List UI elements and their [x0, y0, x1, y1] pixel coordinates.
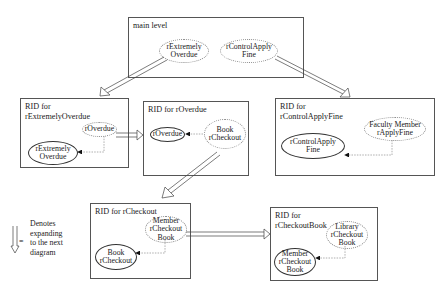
- node-rcontrolapply-fine[interactable]: rControlApply Fine: [220, 39, 278, 63]
- box-title: RID for rOverdue: [148, 105, 207, 115]
- box-title: RID for rCheckout: [95, 207, 157, 217]
- rid-rcontrolapplyfine-box: RID for rControlApplyFine Faculty Member…: [275, 98, 435, 176]
- node-library-rcheckout-book[interactable]: Library rCheckout Book: [326, 221, 368, 249]
- node-rcontrolapply-fine[interactable]: rControlApply Fine: [281, 133, 345, 159]
- node-roverdue[interactable]: rOverdue: [82, 122, 117, 137]
- node-faculty-member-rapplyfine[interactable]: Faculty Member rApplyFine: [364, 117, 426, 141]
- legend-text: Denotes expanding to the next diagram: [30, 219, 63, 257]
- box-title: RID for rCheckoutBook: [275, 211, 327, 230]
- node-book-rcheckout[interactable]: Book rCheckout: [204, 119, 246, 149]
- box-title: main level: [133, 21, 167, 31]
- rid-rcheckoutbook-box: RID for rCheckoutBook Library rCheckout …: [270, 207, 378, 281]
- node-rextremely-overdue[interactable]: rExtremely Overdue: [159, 39, 209, 63]
- main-level-box: main level rExtremely Overdue rControlAp…: [128, 17, 304, 78]
- node-book-rcheckout[interactable]: Book rCheckout: [95, 244, 137, 270]
- legend-equals: =: [19, 237, 24, 246]
- rid-rcheckout-box: RID for rCheckout Member rCheckout Book …: [90, 203, 191, 279]
- rid-roverdue-box: RID for rOverdue rOverdue Book rCheckout: [143, 101, 249, 176]
- node-roverdue[interactable]: rOverdue: [150, 127, 185, 142]
- box-title: RID for rControlApplyFine: [280, 102, 343, 121]
- rid-rextremelyoverdue-box: RID for rExtremelyOverdue rOverdue rExtr…: [20, 98, 129, 168]
- node-rextremely-overdue[interactable]: rExtremely Overdue: [28, 141, 78, 165]
- box-title: RID for rExtremelyOverdue: [25, 102, 90, 121]
- node-member-rcheckout-book[interactable]: Member rCheckout Book: [145, 216, 187, 243]
- node-member-rcheckout-book[interactable]: Member rCheckout Book: [274, 248, 316, 276]
